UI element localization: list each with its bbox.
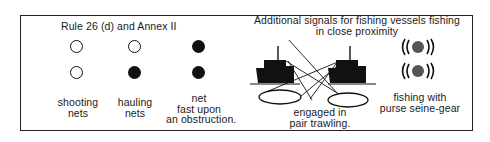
black-light-icon [192, 40, 205, 53]
net-fast-label: net fast upon an obstruction. [166, 93, 232, 125]
black-light-icon [192, 66, 205, 79]
white-light-icon [128, 40, 141, 53]
trawler-left-icon [256, 46, 294, 83]
flashing-light-icon [403, 63, 434, 79]
black-light-icon [128, 66, 141, 79]
white-light-icon [70, 40, 83, 53]
pair-trawling-label: engaged in pair trawling. [280, 107, 360, 129]
white-light-icon [70, 66, 83, 79]
purse-seine-label: fishing with purse seine-gear [377, 92, 463, 114]
purse-seine-lights [398, 35, 438, 85]
rule-title: Rule 26 (d) and Annex II [61, 21, 177, 32]
shooting-nets-label: shooting nets [52, 97, 104, 119]
hauling-nets-label: hauling nets [110, 97, 160, 119]
flashing-light-icon [403, 39, 434, 55]
additional-signals-title: Additional signals for fishing vessels f… [247, 15, 467, 37]
trawler-right-icon [328, 46, 366, 83]
